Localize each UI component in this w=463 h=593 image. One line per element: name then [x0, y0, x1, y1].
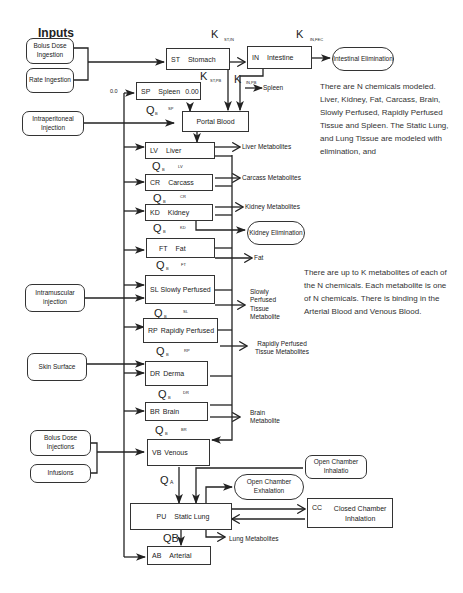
slowly-perfused-label: Slowly Perfused — [161, 286, 211, 293]
bolus-dose-injections-box: Bolus Dose Injections — [30, 430, 91, 456]
brain-code: BR — [150, 408, 160, 415]
portal-blood-compartment: Portal Blood — [182, 111, 249, 132]
stomach-compartment: ST Stomach — [166, 48, 230, 70]
slowly-perfused-compartment: SL Slowly Perfused — [145, 275, 215, 304]
qb-rp-symbol: Q — [156, 345, 165, 357]
k-in-pb-symbol: K — [234, 73, 241, 85]
derma-compartment: DR Derma — [145, 361, 208, 386]
stomach-code: ST — [171, 56, 180, 63]
qb-dr-symbol: Q — [158, 388, 167, 400]
rate-ingestion-box: Rate Ingestion — [26, 68, 74, 93]
open-chamber-inhalation-box: Open Chamber Inhalatio — [305, 455, 367, 479]
pbpk-diagram: Inputs Bolus Dose Ingestion Rate Ingesti… — [0, 0, 463, 593]
intramuscular-injection-box: Intramuscular injection — [25, 284, 85, 312]
qb-cr-symbol: Q — [153, 192, 162, 204]
stomach-label: Stomach — [188, 56, 216, 63]
q-dr-subscript: DR — [183, 390, 189, 395]
arterial-blood-compartment: AB Arterial — [147, 546, 211, 565]
slowly-perfused-code: SL — [150, 286, 159, 293]
kidney-compartment: KD Kidney — [145, 204, 213, 221]
rapidly-perfused-code: RP — [148, 327, 158, 334]
rapidly-perfused-compartment: RP Rapidly Perfused — [143, 318, 218, 343]
carcass-code: CR — [150, 179, 160, 186]
qb-ft-subscript: B — [166, 266, 169, 271]
venous-code: VB — [152, 449, 161, 456]
venous-blood-compartment: VB Venous — [147, 439, 210, 466]
fat-output-label: Fat — [254, 254, 263, 262]
carcass-compartment: CR Carcass — [145, 174, 213, 191]
k-in-pb-subscript: IN,PB — [246, 80, 256, 85]
slowly-perfused-metabolite-label: Slowly Perfused Tissue Metabolite — [250, 288, 290, 322]
k-st-pb-subscript: ST,PB — [210, 78, 221, 83]
rapidly-perfused-metabolites-label: Rapidly Perfused Tissue Metabolites — [252, 340, 312, 357]
closed-chamber-compartment: CC Closed Chamber Inhalation — [307, 498, 393, 528]
fat-label: Fat — [176, 245, 186, 252]
liver-code: LV — [150, 147, 158, 154]
k-st-pb-symbol: K — [200, 70, 207, 82]
qb-br-subscript: B — [165, 431, 168, 436]
fat-compartment: FT Fat — [146, 238, 215, 258]
kidney-metabolites-label: Kidney Metabolites — [245, 203, 300, 211]
qb-sp-subscript: B — [155, 111, 158, 116]
liver-compartment: LV Liver — [145, 142, 215, 159]
liver-label: Liver — [166, 147, 181, 154]
arterial-label: Arterial — [169, 552, 191, 559]
q-sl-subscript: SL — [183, 309, 188, 314]
arterial-code: AB — [152, 552, 161, 559]
q-ft-subscript: FT — [181, 262, 186, 267]
lung-metabolites-label: Lung Metabolites — [229, 535, 279, 543]
chemicals-note: There are N chemicals modeled. Liver, Ki… — [320, 80, 452, 158]
qa-symbol: Q — [160, 474, 169, 486]
bolus-dose-ingestion-box: Bolus Dose Ingestion — [26, 38, 74, 64]
skin-surface-box: Skin Surface — [27, 353, 87, 381]
venous-label: Venous — [164, 449, 187, 456]
intestine-compartment: IN Intestine — [247, 46, 312, 69]
static-lung-compartment: PU Static Lung — [130, 503, 232, 530]
liver-metabolites-label: Liver Metabolites — [242, 143, 291, 151]
qb-dr-subscript: B — [168, 395, 171, 400]
intestine-code: IN — [252, 54, 259, 61]
k-in-fec-subscript: IN,FEC — [310, 37, 323, 42]
kidney-label: Kidney — [168, 209, 189, 216]
brain-compartment: BR Brain — [145, 402, 208, 421]
spleen-value: 0.00 — [185, 88, 199, 95]
kidney-elimination-box: Kidney Elimination — [247, 221, 305, 245]
closed-chamber-code: CC — [312, 504, 322, 511]
qb-lv-subscript: B — [162, 167, 165, 172]
brain-metabolite-label: Brain Metabolite — [250, 409, 290, 426]
derma-code: DR — [150, 370, 160, 377]
open-chamber-exhalation-box: Open Chamber Exhalation — [234, 474, 304, 500]
qb-rp-subscript: B — [166, 352, 169, 357]
q-br-subscript: BR — [181, 427, 187, 432]
carcass-metabolites-label: Carcass Metabolites — [242, 174, 301, 182]
brain-label: Brain — [163, 408, 179, 415]
q-sp-subscript: SP — [168, 106, 173, 111]
intestine-label: Intestine — [267, 54, 293, 61]
infusions-box: Infusions — [30, 464, 91, 483]
carcass-label: Carcass — [168, 179, 194, 186]
fat-code: FT — [159, 245, 168, 252]
qb-lung-label: QB — [163, 532, 179, 544]
qb-kd-subscript: B — [163, 229, 166, 234]
intestinal-elimination-box: Intestinal Elimination — [332, 47, 394, 71]
q-cr-subscript: CR — [180, 194, 186, 199]
qb-sp-symbol: Q — [146, 104, 155, 116]
spleen-input-value: 0.0 — [110, 88, 118, 95]
spleen-output-label: Spleen — [263, 84, 283, 92]
q-kd-subscript: KD — [180, 225, 186, 230]
k-st-in-subscript: ST,IN — [224, 37, 234, 42]
kidney-code: KD — [150, 209, 160, 216]
qb-br-symbol: Q — [155, 424, 164, 436]
qa-subscript: A — [170, 479, 173, 485]
derma-label: Derma — [163, 370, 184, 377]
qb-kd-symbol: Q — [153, 222, 162, 234]
spleen-code: SP — [141, 88, 150, 95]
qb-lv-symbol: Q — [152, 160, 161, 172]
k-st-in-symbol: K — [211, 28, 218, 40]
k-in-fec-symbol: K — [296, 28, 303, 40]
qb-ft-symbol: Q — [156, 259, 165, 271]
intraperitoneal-injection-box: Intraperitoneal Injection — [22, 111, 84, 136]
spleen-label: Spleen — [158, 88, 180, 95]
metabolites-note: There are up to K metabolites of each of… — [304, 266, 454, 318]
q-lv-subscript: LV — [178, 164, 183, 169]
